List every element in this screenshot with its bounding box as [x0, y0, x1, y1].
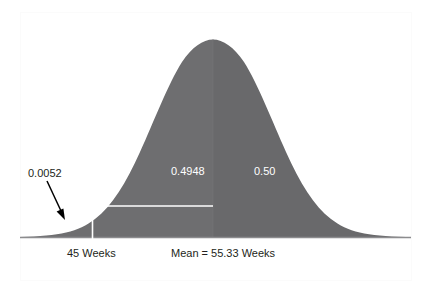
tail-probability-label: 0.0052 — [28, 168, 62, 179]
area-above-mean — [213, 30, 413, 240]
mean-value-label: Mean = 55.33 Weeks — [171, 248, 275, 259]
left-area-probability-label: 0.4948 — [171, 166, 205, 177]
tail-callout-arrow — [47, 181, 65, 220]
area-below-mean — [0, 30, 213, 240]
right-area-probability-label: 0.50 — [254, 166, 275, 177]
normal-curve-figure: 0.0052 0.4948 0.50 45 Weeks Mean = 55.33… — [0, 0, 435, 294]
cutoff-value-label: 45 Weeks — [67, 248, 116, 259]
